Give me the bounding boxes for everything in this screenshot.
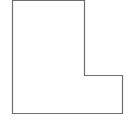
diagram-canvas — [0, 0, 130, 120]
l-shaped-polygon — [13, 1, 123, 114]
